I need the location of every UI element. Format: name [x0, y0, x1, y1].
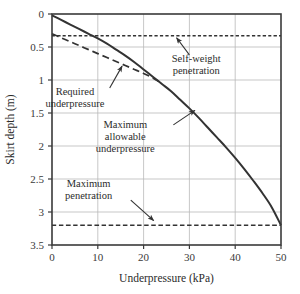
x-tick-label: 50 [276, 251, 288, 263]
annotation-label: allowable [105, 131, 146, 142]
annotation-label: Maximum [103, 119, 147, 130]
x-tick-label: 0 [49, 251, 55, 263]
annotation-label: Maximum [67, 178, 111, 189]
y-tick-label: 1 [39, 74, 45, 86]
annotation-label: Required [56, 86, 95, 97]
annotation-label: underpressure [45, 98, 104, 109]
x-axis-title: Underpressure (kPa) [119, 272, 214, 285]
y-tick-label: 1.5 [30, 107, 44, 119]
y-tick-label: 3 [39, 206, 45, 218]
x-tick-label: 40 [230, 251, 242, 263]
x-tick-label: 20 [138, 251, 150, 263]
skirt-depth-vs-underpressure-chart: 01020304050 00.511.522.533.5 Underpressu… [0, 0, 300, 294]
annotation-label: penetration [65, 190, 113, 201]
x-tick-label: 10 [92, 251, 104, 263]
annotation-label: Self-weight [172, 53, 221, 64]
y-tick-label: 0 [39, 8, 45, 20]
chart-figure: 01020304050 00.511.522.533.5 Underpressu… [0, 0, 300, 294]
y-tick-label: 2 [39, 140, 45, 152]
y-tick-label: 0.5 [30, 41, 44, 53]
y-tick-label: 3.5 [30, 239, 44, 251]
x-tick-label: 30 [184, 251, 196, 263]
y-axis-title: Skirt depth (m) [4, 94, 17, 164]
annotation-label: underpressure [96, 143, 155, 154]
annotation-label: penetration [173, 65, 221, 76]
y-tick-label: 2.5 [30, 173, 44, 185]
